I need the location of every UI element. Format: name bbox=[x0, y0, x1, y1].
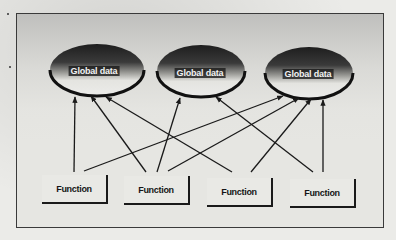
function-label-4: Function bbox=[304, 188, 340, 198]
arrow-f3-gd3 bbox=[251, 99, 311, 172]
function-box-2: Function bbox=[124, 176, 190, 205]
arrow-f4-gd2 bbox=[216, 97, 313, 172]
function-label-1: Function bbox=[56, 184, 92, 194]
arrow-f2-gd1 bbox=[91, 96, 146, 172]
global-data-label-3: Global data bbox=[283, 69, 334, 79]
global-data-label-2: Global data bbox=[175, 68, 226, 78]
function-box-4: Function bbox=[290, 179, 356, 208]
arrow-f1-gd3 bbox=[84, 96, 283, 171]
function-label-2: Function bbox=[138, 185, 174, 195]
arrow-f1-gd1 bbox=[74, 97, 75, 172]
global-data-label-1: Global data bbox=[69, 66, 120, 76]
arrow-f2-gd2 bbox=[157, 98, 180, 172]
function-box-1: Function bbox=[42, 175, 108, 204]
connection-arrows bbox=[74, 96, 323, 172]
diagram-page: Global data Global data Global data Func… bbox=[0, 0, 396, 240]
arrow-f2-gd3 bbox=[168, 98, 299, 171]
function-label-3: Function bbox=[221, 187, 257, 197]
arrow-f3-gd1 bbox=[106, 97, 232, 172]
function-box-3: Function bbox=[207, 178, 273, 207]
